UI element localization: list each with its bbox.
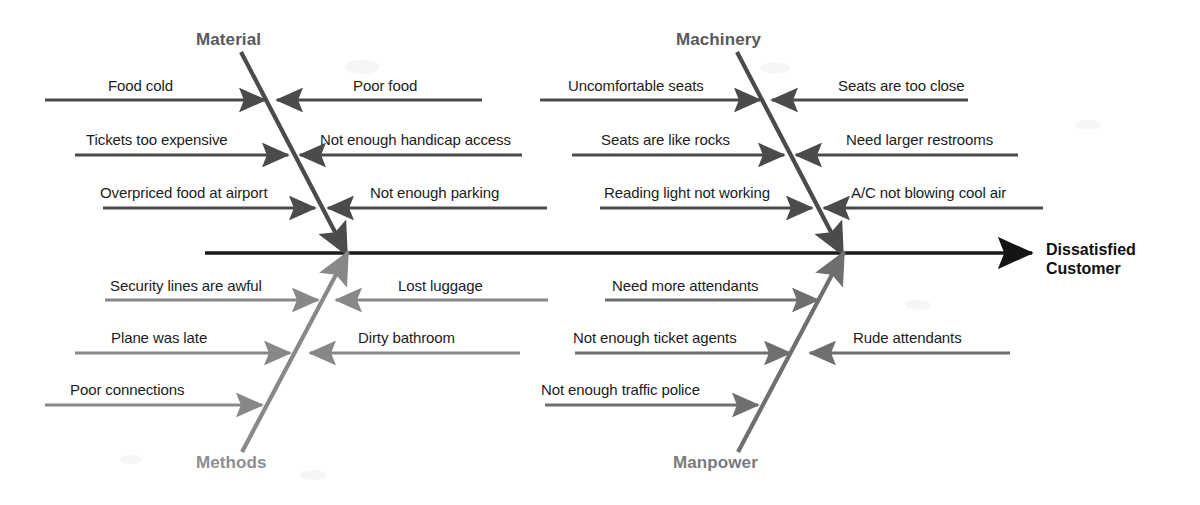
cause-label-material-0: Food cold xyxy=(108,78,173,94)
category-label-manpower: Manpower xyxy=(673,453,758,473)
cause-label-methods-4: Poor connections xyxy=(70,382,184,398)
cause-label-methods-2: Plane was late xyxy=(111,330,207,346)
category-label-machinery: Machinery xyxy=(676,30,761,50)
cause-label-manpower-0: Need more attendants xyxy=(612,278,758,294)
cause-label-methods-3: Dirty bathroom xyxy=(358,330,455,346)
cause-label-material-2: Tickets too expensive xyxy=(86,132,228,148)
cause-label-machinery-5: A/C not blowing cool air xyxy=(851,185,1006,201)
fishbone-diagram-canvas: MaterialFood coldPoor foodTickets too ex… xyxy=(0,0,1200,505)
cause-label-manpower-2: Rude attendants xyxy=(853,330,962,346)
fishbone-lines-layer xyxy=(0,0,1200,505)
scan-artifact xyxy=(345,60,379,74)
cause-label-machinery-1: Seats are too close xyxy=(838,78,965,94)
cause-label-machinery-2: Seats are like rocks xyxy=(601,132,730,148)
scan-artifact xyxy=(760,62,790,74)
cause-label-machinery-4: Reading light not working xyxy=(604,185,770,201)
cause-label-material-3: Not enough handicap access xyxy=(320,132,511,148)
effect-label-line1: Dissatisfied xyxy=(1046,241,1136,260)
cause-label-machinery-0: Uncomfortable seats xyxy=(568,78,704,94)
cause-label-machinery-3: Need larger restrooms xyxy=(846,132,993,148)
cause-label-methods-1: Lost luggage xyxy=(398,278,483,294)
cause-label-material-5: Not enough parking xyxy=(370,185,499,201)
scan-artifact xyxy=(905,300,931,310)
effect-label: Dissatisfied Customer xyxy=(1046,241,1136,279)
cause-label-manpower-1: Not enough ticket agents xyxy=(573,330,737,346)
cause-label-methods-0: Security lines are awful xyxy=(110,278,262,294)
effect-label-line2: Customer xyxy=(1046,260,1136,279)
cause-label-material-1: Poor food xyxy=(353,78,417,94)
category-label-material: Material xyxy=(196,30,261,50)
scan-artifact xyxy=(300,470,326,480)
cause-label-material-4: Overpriced food at airport xyxy=(100,185,267,201)
category-label-methods: Methods xyxy=(196,453,267,473)
cause-label-manpower-3: Not enough traffic police xyxy=(541,382,700,398)
scan-artifact xyxy=(120,455,142,464)
scan-artifact xyxy=(1075,120,1101,130)
